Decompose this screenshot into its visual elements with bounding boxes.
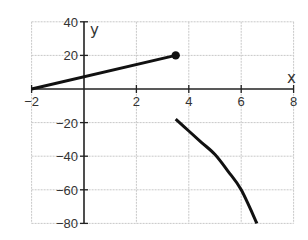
x-tick-label: −2 — [24, 94, 39, 109]
piecewise-function-graph: −224684020−20−40−60−80 x y — [0, 0, 308, 240]
y-tick-label: 20 — [64, 48, 78, 63]
y-tick-label: −60 — [56, 183, 78, 198]
y-axis-label: y — [90, 21, 99, 39]
x-tick-label: 6 — [238, 94, 245, 109]
closed-endpoint-dot — [172, 51, 180, 59]
x-axis-label: x — [287, 69, 296, 87]
x-tick-label: 4 — [185, 94, 192, 109]
y-tick-label: −80 — [56, 216, 78, 231]
linear-piece-line — [32, 55, 176, 89]
x-tick-label: 2 — [133, 94, 140, 109]
y-tick-label: −20 — [56, 116, 78, 131]
y-tick-label: −40 — [56, 149, 78, 164]
curve-piece-line — [176, 119, 257, 223]
y-tick-label: 40 — [64, 15, 78, 30]
x-tick-label: 8 — [290, 94, 297, 109]
